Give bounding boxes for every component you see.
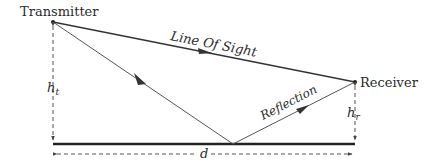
reflection-arrow-icon (296, 105, 309, 114)
receiver-node (353, 80, 357, 84)
line-of-sight-label: Line Of Sight (168, 28, 259, 60)
two-ray-diagram: Transmitter Receiver Line Of Sight Refle… (0, 0, 429, 168)
reflection-label: Reflection (257, 82, 319, 123)
receiver-label: Receiver (360, 75, 419, 90)
transmitter-height-label: ht (47, 80, 59, 97)
receiver-height-label: hr (347, 105, 360, 122)
transmitter-label: Transmitter (20, 4, 99, 19)
transmitter-node (51, 20, 55, 24)
incident-arrow-icon (134, 73, 146, 85)
distance-label: d (200, 146, 208, 161)
